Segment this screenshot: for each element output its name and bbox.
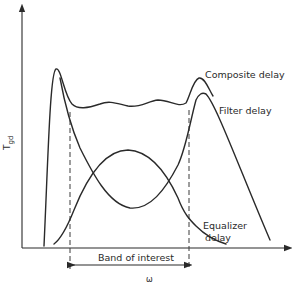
y-axis-label-subscript: gd	[7, 136, 15, 145]
filter-delay-curve	[60, 78, 270, 240]
filter-delay-label: Filter delay	[219, 105, 272, 116]
composite-delay-label: Composite delay	[205, 69, 285, 80]
y-axis-label-main: T	[2, 145, 12, 151]
y-axis-label: Tgd	[2, 136, 17, 150]
delay-diagram	[0, 0, 304, 286]
band-of-interest-label: Band of interest	[98, 252, 174, 263]
equalizer-delay-label-line1: Equalizer	[203, 220, 247, 231]
equalizer-delay-label-line2: delay	[205, 232, 231, 243]
x-axis-label: ω	[146, 274, 153, 285]
equalizer-delay-curve	[54, 150, 226, 244]
